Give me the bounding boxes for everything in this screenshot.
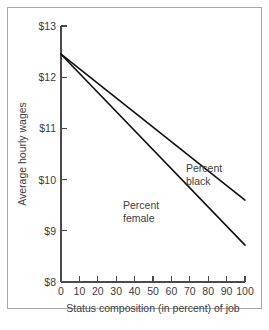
annotation-percent-female: Percent female <box>123 199 159 224</box>
x-tick-label: 80 <box>202 285 214 297</box>
y-axis-title: Average hourly wages <box>16 102 28 206</box>
x-tick-label: 30 <box>110 285 122 297</box>
x-tick-label: 0 <box>58 285 64 297</box>
y-tick-label: $9 <box>44 225 56 237</box>
annotation-percent-female-line1: Percent <box>123 199 159 211</box>
x-tick-label: 20 <box>92 285 104 297</box>
y-tick-label: $13 <box>38 20 56 32</box>
x-tick-label: 100 <box>236 285 254 297</box>
y-axis-ticks <box>61 26 67 282</box>
x-tick-label: 50 <box>147 285 159 297</box>
annotation-percent-black-line1: Percent <box>186 162 222 174</box>
series-line-percent-black <box>61 54 245 200</box>
line-chart: $13 $12 $11 $10 $9 $8 0 10 20 30 40 50 6… <box>0 0 269 330</box>
annotation-percent-black-line2: black <box>186 175 211 187</box>
x-axis-tick-labels: 0 10 20 30 40 50 60 70 80 90 100 <box>58 285 254 297</box>
y-tick-label: $8 <box>44 276 56 288</box>
x-tick-label: 10 <box>74 285 86 297</box>
x-tick-label: 40 <box>129 285 141 297</box>
x-tick-label: 90 <box>221 285 233 297</box>
x-axis-ticks <box>61 276 245 282</box>
x-axis-title: Status composition (in percent) of job <box>66 302 239 314</box>
y-tick-label: $10 <box>38 174 56 186</box>
figure-container: $13 $12 $11 $10 $9 $8 0 10 20 30 40 50 6… <box>0 0 269 330</box>
x-tick-label: 70 <box>184 285 196 297</box>
x-tick-label: 60 <box>166 285 178 297</box>
annotation-percent-female-line2: female <box>123 212 155 224</box>
annotation-percent-black: Percent black <box>186 162 222 187</box>
y-tick-label: $11 <box>39 122 56 134</box>
y-axis-tick-labels: $13 $12 $11 $10 $9 $8 <box>38 20 56 288</box>
y-tick-label: $12 <box>38 71 56 83</box>
